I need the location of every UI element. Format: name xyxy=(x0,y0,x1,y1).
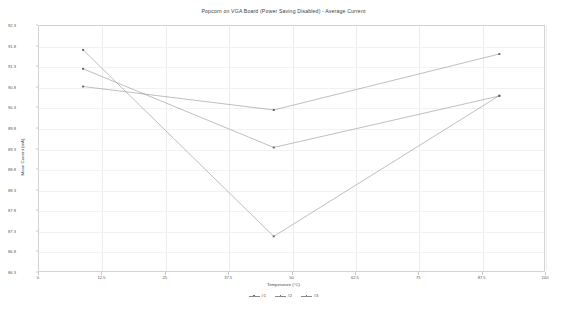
plot-area xyxy=(38,25,545,272)
legend-label: #3 xyxy=(314,293,319,298)
chart-title: Popcorn on VGA Board (Power Saving Disab… xyxy=(0,8,567,14)
data-point-marker xyxy=(498,53,500,55)
legend-line-marker-icon xyxy=(275,294,286,298)
y-axis-title: Mean Current (mA) xyxy=(20,139,25,176)
chart-legend: #1#2#3 xyxy=(0,293,567,298)
y-tick-label: 89.8 xyxy=(0,125,16,130)
series-line-n1 xyxy=(83,50,499,236)
y-tick-label: 87.8 xyxy=(0,208,16,213)
y-tick-label: 87.3 xyxy=(0,228,16,233)
x-tick-label: 50 xyxy=(289,275,294,280)
y-tick-label: 88.8 xyxy=(0,167,16,172)
data-point-marker xyxy=(273,146,275,148)
legend-item-2[interactable]: #2 xyxy=(275,293,292,298)
data-point-marker xyxy=(498,95,500,97)
y-tick-label: 86.3 xyxy=(0,270,16,275)
series-line-n3 xyxy=(83,54,499,110)
x-axis-title: Temperature (°C) xyxy=(0,282,567,287)
y-tick-label: 92.3 xyxy=(0,23,16,28)
y-tick-label: 86.8 xyxy=(0,249,16,254)
y-tick-label: 88.3 xyxy=(0,187,16,192)
data-point-marker xyxy=(82,68,84,70)
y-tick-label: 91.3 xyxy=(0,64,16,69)
data-point-marker xyxy=(273,109,275,111)
series-line-n2 xyxy=(83,69,499,148)
gridline-vertical xyxy=(546,26,547,271)
y-tick-label: 91.8 xyxy=(0,43,16,48)
legend-label: #1 xyxy=(261,293,266,298)
legend-line-marker-icon xyxy=(301,294,312,298)
legend-item-3[interactable]: #3 xyxy=(301,293,318,298)
legend-item-1[interactable]: #1 xyxy=(249,293,266,298)
chart-container: Popcorn on VGA Board (Power Saving Disab… xyxy=(0,0,567,314)
series-layer xyxy=(39,26,546,273)
x-tick-label: 100 xyxy=(542,275,549,280)
legend-line-marker-icon xyxy=(249,294,260,298)
data-point-marker xyxy=(82,86,84,88)
x-tick-label: 0 xyxy=(37,275,39,280)
x-tick-label: 87.5 xyxy=(478,275,486,280)
data-point-marker xyxy=(82,49,84,51)
x-tick-label: 12.5 xyxy=(97,275,105,280)
x-tick-label: 62.5 xyxy=(351,275,359,280)
y-tick-label: 90.3 xyxy=(0,105,16,110)
data-point-marker xyxy=(273,235,275,237)
x-tick-label: 75 xyxy=(416,275,421,280)
x-tick-label: 25 xyxy=(162,275,167,280)
legend-label: #2 xyxy=(288,293,293,298)
y-tick-label: 89.3 xyxy=(0,146,16,151)
x-tick-label: 37.5 xyxy=(224,275,232,280)
y-tick-label: 90.8 xyxy=(0,84,16,89)
